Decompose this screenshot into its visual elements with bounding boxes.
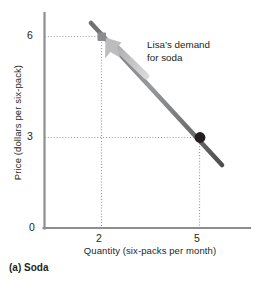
gridlines (45, 37, 200, 229)
data-point-marker-5-3 (195, 132, 206, 143)
demand-curve-figure: Price (dollars per six-pack) Quantity (s… (0, 0, 267, 281)
curve-annotation-line-1: Lisa’s demand (147, 39, 210, 52)
origin-label: 0 (29, 221, 35, 233)
y-axis-title: Price (dollars per six-pack) (12, 43, 23, 203)
chart-canvas (0, 0, 267, 281)
y-tick-label-6: 6 (27, 29, 33, 41)
x-axis-title: Quantity (six-packs per month) (44, 245, 256, 256)
figure-caption: (a) Soda (9, 262, 48, 273)
x-tick-label-5: 5 (194, 232, 200, 244)
curve-annotation-label: Lisa’s demand for soda (147, 39, 210, 64)
annotation-arrow-icon (105, 38, 146, 77)
y-tick-label-3: 3 (27, 130, 33, 142)
data-point-marker-2-6 (98, 33, 107, 42)
curve-annotation-line-2: for soda (147, 52, 210, 65)
x-tick-label-2: 2 (96, 232, 102, 244)
